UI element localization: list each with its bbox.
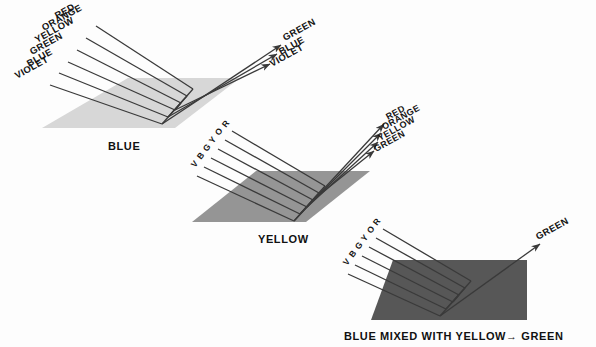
mixed-incoming-labels: R O Y G B V [341,216,383,267]
incoming-label-r2: R [371,216,383,227]
figure-canvas: RED ORANGE YELLOW GREEN BLUE VIOLET GREE… [0,0,596,347]
blue-outgoing-labels: GREEN BLUE VIOLET [268,16,318,69]
incoming-label-v: V [189,158,201,169]
outgoing-label-green3: GREEN [534,215,571,242]
incoming-label-y: Y [207,134,219,145]
blue-incoming-labels: RED ORANGE YELLOW GREEN BLUE VIOLET [13,1,84,81]
caption-blue: BLUE [108,140,140,152]
incoming-label-y2: Y [359,232,371,243]
incoming-label-o: O [213,126,225,138]
incoming-label-v2: V [341,256,353,267]
yellow-incoming-labels: R O Y G B V [189,118,232,169]
mixed-outgoing-labels: GREEN [534,215,571,242]
panel-blue-surface: RED ORANGE YELLOW GREEN BLUE VIOLET GREE… [13,1,318,152]
blue-surface-plane [42,78,240,128]
panel-yellow-surface: R O Y G B V RED ORANGE YELLOW GREEN YELL… [189,103,422,245]
panel-mixed-surface: R O Y G B V GREEN BLUE MIXED WITH YELLOW… [341,215,571,342]
incoming-label-b: B [195,150,207,161]
caption-mixed: BLUE MIXED WITH YELLOW→ GREEN [344,330,563,342]
caption-yellow: YELLOW [258,233,309,245]
incoming-label-r: R [220,118,232,129]
incoming-label-b2: B [347,248,359,259]
